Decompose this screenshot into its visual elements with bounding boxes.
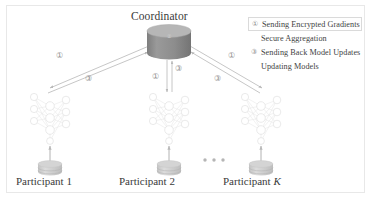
legend-item-3: ③ Sending Back Model Updates bbox=[248, 45, 362, 59]
legend-item-1: ① Sending Encrypted Gradients bbox=[248, 17, 362, 31]
legend-label-1: Sending Encrypted Gradients bbox=[262, 20, 360, 29]
neural-network-participant-1 bbox=[30, 93, 69, 144]
legend-item-2: ② Secure Aggregation bbox=[248, 31, 362, 45]
database-participant-k bbox=[249, 161, 273, 176]
participant-1-label-suffix: 1 bbox=[66, 175, 72, 187]
participant-2-label: Participant 2 bbox=[119, 176, 175, 187]
flow-marker-right-inbound: ③ bbox=[214, 75, 221, 83]
database-participant-1 bbox=[38, 161, 62, 176]
participant-2-label-suffix: 2 bbox=[169, 175, 175, 187]
participant-1-label: Participant 1 bbox=[16, 176, 72, 187]
figure-root: ② bbox=[0, 0, 373, 203]
participant-2-label-prefix: Participant bbox=[119, 175, 167, 187]
database-connectors bbox=[50, 146, 261, 162]
arrow-participant-1-to-coordinator bbox=[48, 52, 148, 93]
flow-marker-left-outbound: ① bbox=[56, 52, 63, 60]
flow-marker-center-outbound: ① bbox=[152, 73, 159, 81]
database-participant-2 bbox=[157, 161, 181, 176]
participant-k-label: Participant K bbox=[223, 176, 281, 187]
legend-marker-3-icon: ③ bbox=[249, 48, 258, 57]
neural-network-participant-k bbox=[241, 93, 280, 144]
flow-marker-left-inbound: ③ bbox=[85, 75, 92, 83]
participant-k-label-prefix: Participant bbox=[223, 175, 271, 187]
legend-label-3: Sending Back Model Updates bbox=[261, 48, 360, 57]
legend: ① Sending Encrypted Gradients ② Secure A… bbox=[248, 17, 362, 73]
legend-marker-1-icon: ① bbox=[250, 20, 259, 29]
flow-marker-right-outbound: ① bbox=[228, 52, 235, 60]
coordinator-label: Coordinator bbox=[131, 11, 188, 23]
legend-item-4: ④ Updating Models bbox=[248, 59, 362, 73]
legend-label-4: Updating Models bbox=[261, 62, 319, 71]
participants-ellipsis bbox=[203, 158, 224, 161]
participant-k-label-suffix: K bbox=[273, 175, 280, 187]
legend-marker-4-icon: ④ bbox=[249, 62, 258, 71]
coordinator-cylinder: ② bbox=[147, 25, 191, 60]
participant-1-label-prefix: Participant bbox=[16, 175, 64, 187]
legend-label-2: Secure Aggregation bbox=[261, 34, 327, 43]
flow-marker-center-inbound: ③ bbox=[175, 65, 182, 73]
legend-marker-2-icon: ② bbox=[249, 34, 258, 43]
arrow-coordinator-to-participant-1 bbox=[50, 46, 149, 88]
neural-network-participant-2 bbox=[149, 93, 188, 144]
